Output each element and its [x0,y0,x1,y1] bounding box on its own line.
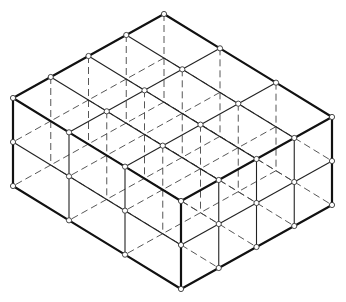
lattice-node [216,177,221,182]
lattice-node [10,139,15,144]
hidden-edge [69,155,107,176]
outline-edge [257,138,295,159]
visible-edge [201,104,239,125]
hidden-edge [13,121,51,142]
lattice-node [122,208,127,213]
outline-edge [13,98,69,132]
visible-edge [294,161,332,182]
visible-edge [125,146,163,167]
hidden-edge [126,58,164,79]
visible-edge [145,69,183,90]
lattice-node [48,74,53,79]
visible-edge [107,90,145,111]
visible-edge [69,111,107,132]
lattice-node [160,143,165,148]
visible-edge [107,111,163,145]
hidden-edge [107,178,145,199]
visible-edge [163,125,201,146]
hidden-edge [201,192,239,213]
hidden-edge [89,79,127,100]
lattice-node [217,46,222,51]
lattice-node [66,130,71,135]
outline-edge [125,167,181,201]
lattice-node [10,95,15,100]
hidden-edge [145,113,183,134]
outline-edge [126,14,164,35]
outline-edge [181,180,219,201]
lattice-node [198,122,203,127]
visible-edge [219,203,257,224]
visible-edge [69,176,125,210]
lattice-node [254,156,259,161]
hidden-edge [13,165,51,186]
outline-edge [294,205,332,226]
visible-edge [257,182,295,203]
outline-edge [219,247,257,268]
lattice-node [122,252,127,257]
lattice-node [216,221,221,226]
visible-edge [163,146,219,180]
hidden-edge [107,134,145,155]
lattice-node [142,88,147,93]
lattice-node [86,53,91,58]
lattice-node [329,202,334,207]
lattice-node [273,80,278,85]
hidden-edge [145,157,183,178]
lattice-node [254,200,259,205]
outline-edge [89,35,127,56]
lattice-node [122,164,127,169]
outline-edge [51,56,89,77]
outline-edge [181,268,219,289]
hidden-edge [238,127,276,148]
outline-edge [13,186,69,220]
visible-edge [182,69,238,103]
hidden-edge [182,92,220,113]
visible-edge [89,56,145,90]
visible-edge [126,35,182,69]
lattice-box-diagram [0,0,346,302]
lattice-node [66,174,71,179]
lattice-node [178,198,183,203]
hidden-edge [182,136,220,157]
lattice-node [329,114,334,119]
visible-edge [238,104,294,138]
lattice-node [292,223,297,228]
visible-edge [51,77,107,111]
hidden-edge [201,148,239,169]
hidden-edge [126,102,164,123]
lattice-node [66,218,71,223]
lattice-node [236,101,241,106]
hidden-edge [89,123,127,144]
lattice-node [216,265,221,270]
visible-edge [13,142,69,176]
outline-edge [164,14,220,48]
outline-edge [69,220,125,254]
lattice-node [104,109,109,114]
lattice-node [292,135,297,140]
visible-edge [182,48,220,69]
hidden-edge [125,190,163,211]
outline-edge [220,48,276,82]
visible-edge [201,125,257,159]
outline-edge [219,159,257,180]
hidden-edge [51,144,89,165]
hidden-edge [125,234,163,255]
outline-edge [257,226,295,247]
lattice-node [124,32,129,37]
outline-edge [125,255,181,289]
lattice-node [292,179,297,184]
lattice-node [180,67,185,72]
visible-edge [145,90,201,124]
hidden-edge [51,100,89,121]
outline-edge [13,77,51,98]
hidden-edge [163,169,201,190]
outline-edge [276,83,332,117]
hidden-edge [238,171,276,192]
visible-edge [238,83,276,104]
lattice-node [178,286,183,291]
outline-edge [294,117,332,138]
visible-edge [125,211,181,245]
hidden-edge [69,199,107,220]
lattice-node [178,242,183,247]
lattice-node [329,158,334,163]
